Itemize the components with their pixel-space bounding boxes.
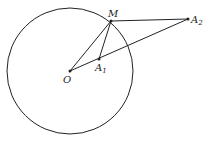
label-m: M	[107, 8, 119, 19]
label-a2: A2	[190, 14, 203, 27]
point-m	[110, 20, 113, 23]
label-a1-sub: 1	[102, 67, 106, 75]
segment-oa2	[70, 19, 188, 71]
point-o	[69, 70, 72, 73]
label-o: O	[63, 74, 71, 85]
label-a2-main: A	[190, 14, 198, 25]
segment-ma2	[111, 19, 188, 21]
label-a1-main: A	[94, 62, 102, 73]
label-a1: A1	[94, 62, 107, 75]
point-a1	[98, 58, 101, 61]
geometry-diagram: O M A1 A2	[0, 0, 204, 151]
point-a2	[187, 18, 190, 21]
label-a2-sub: 2	[197, 19, 203, 27]
segment-om	[70, 21, 111, 71]
